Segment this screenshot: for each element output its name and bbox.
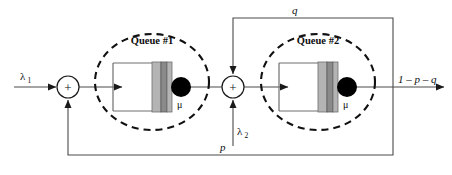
queue-2-service-rate-label: μ [343,99,348,110]
lambda2-symbol: λ [237,125,243,137]
adder-2-plus-sign: + [229,80,236,95]
queue-2-title: Queue #2 [297,35,339,46]
queue-1-service-rate-label: μ [177,99,182,110]
summing-junction-1: + [57,76,79,98]
adder-1-plus-sign: + [64,80,71,95]
queue-1-bar-dark [161,62,167,112]
lambda1-subscript: 1 [28,76,32,85]
queue-station-1 [95,34,209,130]
summing-junction-2: + [222,76,244,98]
queue-2-server [337,77,357,97]
label-arrival-lambda2: λ 2 [237,125,249,140]
queue-1-title: Queue #1 [131,35,173,46]
queue-station-2 [261,34,375,130]
feedback-path-q [233,18,393,87]
queue-1-server [171,77,191,97]
queue-1-bar-light [152,62,161,112]
feedback-q-label: q [292,4,298,16]
label-arrival-lambda1: λ 1 [20,70,32,85]
diagram-canvas: + + λ 1 λ 2 Queue #1 Queue #2 μ μ q p 1 [0,0,452,175]
lambda2-subscript: 2 [245,131,249,140]
queue-2-bar-light [318,62,327,112]
departure-rate-label: 1 – p – q [398,73,437,85]
queueing-network-diagram: + + λ 1 λ 2 Queue #1 Queue #2 μ μ q p 1 [0,0,452,175]
feedback-p-label: p [219,141,226,153]
queue-2-bar-dark [327,62,333,112]
lambda1-symbol: λ [20,70,26,82]
